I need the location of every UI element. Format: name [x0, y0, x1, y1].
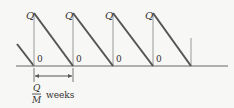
sawtooth-segment [17, 44, 34, 66]
arrow-right-icon [68, 74, 72, 78]
inventory-sawtooth-diagram: Q Q Q Q 0 0 0 0 Q M weeks [0, 0, 234, 108]
zero-label: 0 [76, 54, 82, 64]
interval-denominator: M [31, 95, 42, 105]
peak-label: Q [26, 10, 34, 21]
peak-label: Q [145, 10, 153, 21]
zero-label: 0 [116, 54, 122, 64]
peak-label: Q [105, 10, 113, 21]
peak-label: Q [65, 10, 73, 21]
zero-label: 0 [156, 54, 162, 64]
interval-numerator: Q [33, 83, 41, 93]
interval-unit: weeks [46, 90, 75, 100]
zero-label: 0 [37, 54, 43, 64]
arrow-left-icon [35, 74, 39, 78]
